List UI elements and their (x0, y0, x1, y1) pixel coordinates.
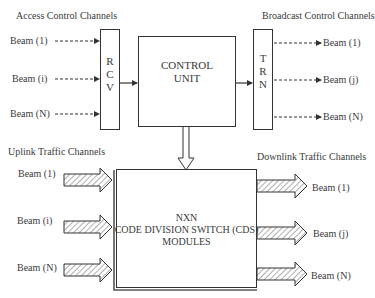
rcv-box: R C V (100, 29, 120, 130)
trn-letter-t: T (254, 52, 272, 65)
uplink-hatched-arrows (64, 168, 112, 282)
rcv-letter-v: V (101, 81, 119, 94)
access-beam-n: Beam (N) (10, 108, 50, 119)
cds-line3: MODULES (117, 236, 256, 248)
broadcast-beam-n: Beam (N) (323, 111, 363, 122)
downlink-hatched-arrows (257, 174, 307, 286)
cds-line2: CODE DIVISION SWITCH (CDS) (113, 224, 260, 236)
broadcast-beam-1: Beam (1) (323, 37, 361, 48)
access-control-label: Access Control Channels (16, 10, 117, 21)
downlink-beam-j: Beam (j) (313, 228, 348, 239)
uplink-traffic-label: Uplink Traffic Channels (8, 146, 105, 157)
access-beam-1: Beam (1) (10, 35, 48, 46)
downlink-beam-1: Beam (1) (312, 182, 350, 193)
downlink-traffic-label: Downlink Traffic Channels (257, 151, 366, 162)
broadcast-beam-j: Beam (j) (323, 74, 358, 85)
downlink-beam-n: Beam (N) (311, 270, 351, 281)
cds-line1: NXN (117, 212, 256, 224)
control-unit-line2: UNIT (139, 72, 235, 85)
broadcast-dashed-arrows (274, 43, 321, 117)
access-dashed-arrows (55, 41, 99, 114)
uplink-beam-i: Beam (i) (17, 215, 52, 226)
trn-letter-n: N (254, 78, 272, 91)
trn-letter-r: R (254, 65, 272, 78)
cds-module-box: NXN CODE DIVISION SWITCH (CDS) MODULES (116, 169, 257, 288)
access-beam-i: Beam (i) (12, 73, 47, 84)
broadcast-control-label: Broadcast Control Channels (262, 10, 375, 21)
rcv-letter-r: R (101, 55, 119, 68)
trn-box: T R N (253, 29, 273, 130)
control-to-cds-hollow-arrow (178, 126, 194, 170)
uplink-beam-1: Beam (1) (18, 168, 56, 179)
rcv-letter-c: C (101, 68, 119, 81)
uplink-beam-n: Beam (N) (17, 262, 57, 273)
control-unit-line1: CONTROL (139, 59, 235, 72)
control-unit-box: CONTROL UNIT (138, 36, 236, 127)
